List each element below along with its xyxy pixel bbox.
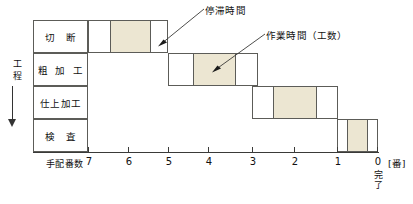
row-label-inspection: 検 査 [33,119,88,152]
bar-work-cutting [110,20,151,53]
x-axis-tick-5 [168,147,169,152]
x-axis-tick-4 [208,147,209,152]
bar-work-inspection [347,119,368,152]
process-arrow-head-icon [8,119,16,127]
process-axis-label: 工 程 [4,58,30,82]
x-axis-tick-1 [337,147,338,152]
x-axis-label-1: 1 [328,156,348,167]
completion-marker: 完 了 [371,170,385,190]
x-axis-tick-7 [88,147,89,152]
row-label-rough-machining: 粗 加 工 [33,53,88,86]
x-axis-label-6: 6 [119,156,139,167]
process-axis-char-1: 工 [4,58,30,70]
x-axis-name: 手配番数 [46,157,83,170]
x-axis-label-2: 2 [285,156,305,167]
annotation-idle-time-label: 停滞時間 [205,3,246,17]
completion-char-2: 了 [371,180,385,190]
x-axis-label-4: 4 [199,156,219,167]
x-axis-label-3: 3 [243,156,263,167]
x-axis-tick-6 [128,147,129,152]
row-label-finish-machining: 仕上加工 [33,86,88,119]
x-axis-tick-2 [294,147,295,152]
x-axis-tick-3 [252,147,253,152]
x-axis-tick-0 [377,147,378,152]
row-label-cutting: 切 断 [33,20,88,53]
x-axis-line [33,152,379,153]
completion-char-1: 完 [371,170,385,180]
x-axis-unit: [番] [388,156,405,170]
bar-work-rough-machining [193,53,236,86]
gantt-chart: 工 程 切 断 粗 加 工 仕上加工 検 査 7 6 5 4 3 2 1 0 手… [0,0,413,204]
x-axis-label-5: 5 [159,156,179,167]
process-axis-char-2: 程 [4,70,30,82]
x-axis-label-0: 0 [368,156,388,167]
bar-work-finish-machining [273,86,317,119]
process-arrow-line [12,86,13,122]
annotation-work-time-label: 作業時間（工数） [266,28,348,42]
